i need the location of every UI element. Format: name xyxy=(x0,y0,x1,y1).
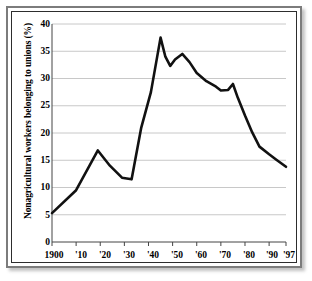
data-series-line xyxy=(52,38,286,213)
chart-plot-area: Nonagricultural workers belonging to uni… xyxy=(0,0,312,281)
figure-container: Nonagricultural workers belonging to uni… xyxy=(0,0,312,281)
line-chart-svg xyxy=(0,0,312,281)
x-tick-marks-group xyxy=(52,242,286,246)
gridlines-group xyxy=(52,24,286,215)
